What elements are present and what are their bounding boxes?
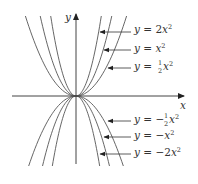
label-pointers [100, 32, 131, 154]
curve-label-neg_half_x2: y = −12x2 [133, 112, 179, 128]
curve-label-neg_2x2: y = −2x2 [133, 146, 181, 158]
y-axis-label: y [64, 11, 72, 23]
curve-label-neg_x2: y = −x2 [133, 129, 174, 141]
parabola-family-figure: x y y = 2x2y = x2y = 12x2y = −12x2y = −x… [0, 0, 198, 184]
curve-labels: y = 2x2y = x2y = 12x2y = −12x2y = −x2y =… [133, 23, 181, 158]
curve-label-x2: y = x2 [133, 42, 165, 54]
curve-label-2x2: y = 2x2 [133, 23, 172, 35]
x-axis-label: x [180, 99, 186, 111]
curve-label-half_x2: y = 12x2 [133, 59, 173, 75]
